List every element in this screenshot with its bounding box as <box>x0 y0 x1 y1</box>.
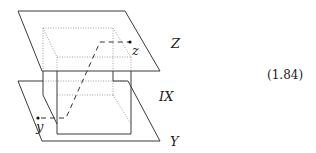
label-y: y <box>35 119 44 134</box>
top-plane-z <box>18 11 160 71</box>
box-visible-edges <box>43 71 131 134</box>
equation-number: (1.84) <box>267 68 303 82</box>
label-Y: Y <box>170 134 180 149</box>
diagram-canvas: z y Z IX Y (1.84) <box>0 0 316 153</box>
label-IX: IX <box>158 89 174 104</box>
label-Z: Z <box>170 36 181 51</box>
label-z: z <box>131 43 139 58</box>
dashed-path <box>41 42 130 118</box>
